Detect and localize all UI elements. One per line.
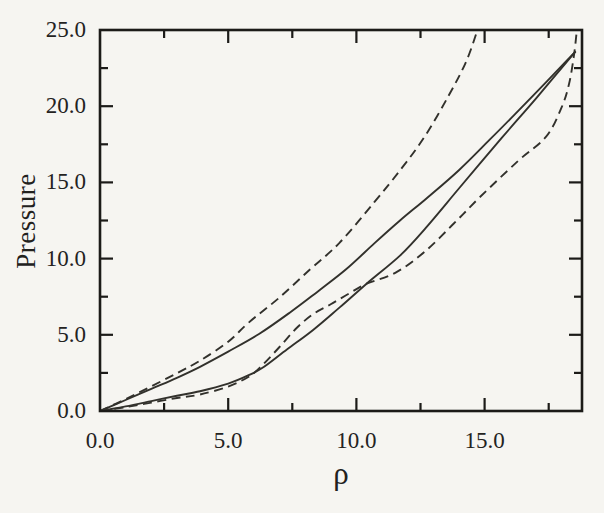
x-axis-title-text: ρ bbox=[333, 456, 348, 492]
y-tick-label: 0.0 bbox=[24, 397, 86, 425]
x-tick-label: 10.0 bbox=[324, 427, 388, 455]
lower-solid-isotherm-curve bbox=[100, 51, 576, 411]
pressure-density-chart: Pressure ρ 0.05.010.015.00.05.010.015.02… bbox=[0, 0, 604, 513]
x-tick-label: 15.0 bbox=[453, 427, 517, 455]
scanned-figure-page: Pressure ρ 0.05.010.015.00.05.010.015.02… bbox=[0, 0, 604, 513]
y-tick-label: 15.0 bbox=[24, 168, 86, 196]
upper-solid-isotherm-curve bbox=[100, 51, 576, 411]
x-tick-label: 0.0 bbox=[68, 427, 132, 455]
lower-dashed-isotherm-curve bbox=[100, 24, 577, 411]
axes-box bbox=[100, 30, 582, 411]
y-tick-label: 10.0 bbox=[24, 245, 86, 273]
y-tick-label: 20.0 bbox=[24, 92, 86, 120]
x-tick-label: 5.0 bbox=[196, 427, 260, 455]
y-tick-label: 5.0 bbox=[24, 321, 86, 349]
y-tick-label: 25.0 bbox=[24, 16, 86, 44]
upper-dashed-isotherm-curve bbox=[100, 24, 479, 411]
